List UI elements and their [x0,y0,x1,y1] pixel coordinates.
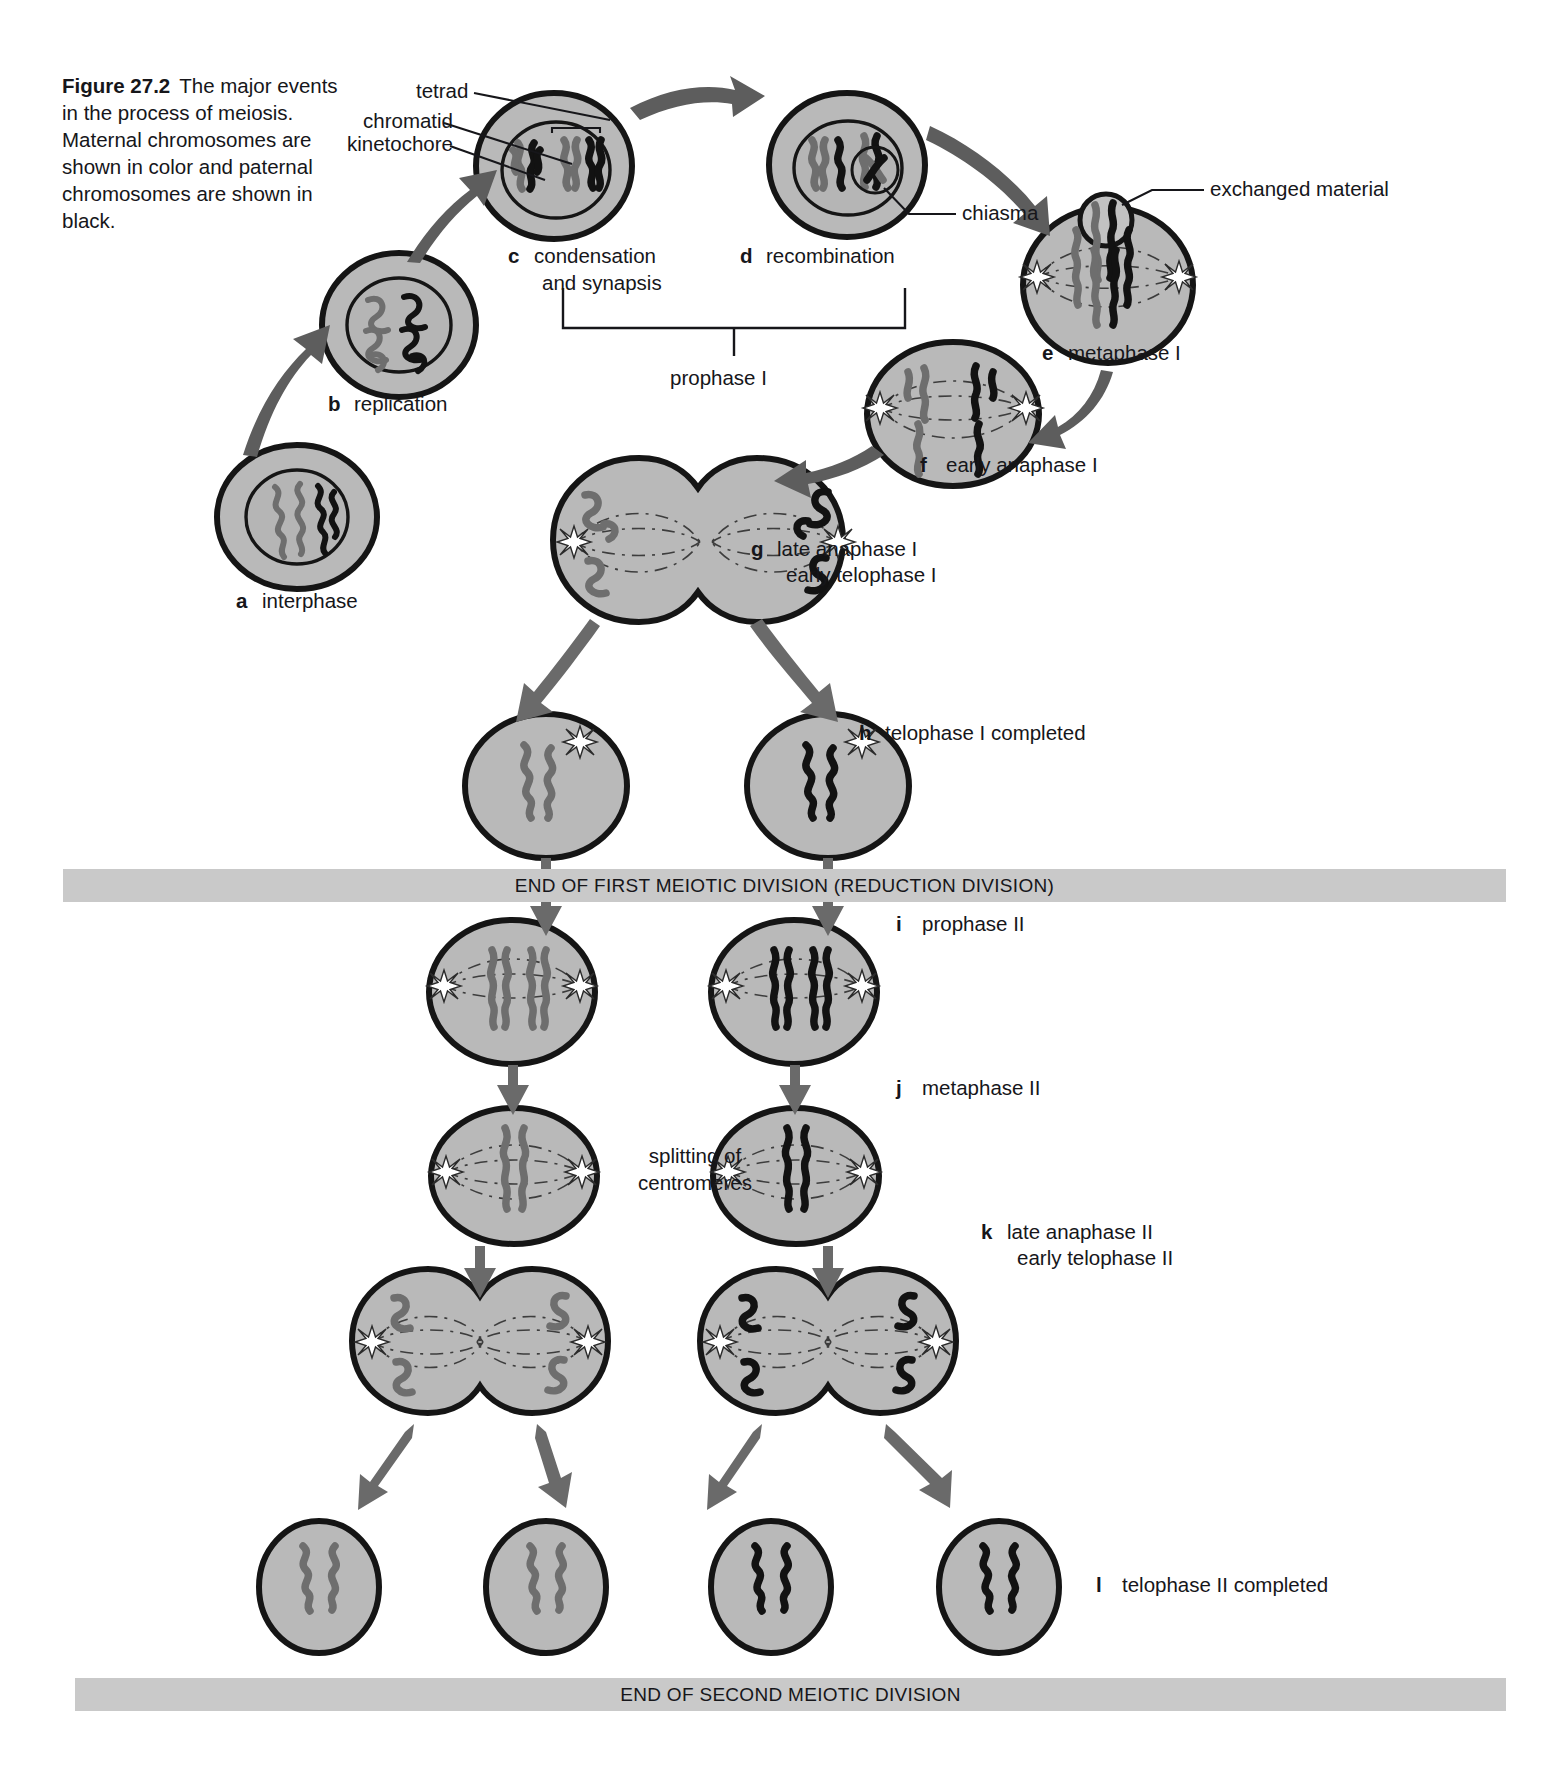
cell-l-telophase-2-completed-3 [711,1521,831,1653]
cell-l-telophase-2-completed-4 [939,1521,1059,1653]
stage-label-g-line2: early telophase I [786,562,936,588]
callout-kinetochore: kinetochore [347,131,453,157]
cell-l-telophase-2-completed-1 [259,1521,379,1653]
cell-c-condensation-synapsis [476,93,632,239]
cell-j-metaphase-2-left [429,1108,599,1244]
cell-l-telophase-2-completed-2 [486,1521,606,1653]
cell-b-replication [322,253,476,397]
stage-label-c: ccondensation [508,243,656,269]
cell-i-prophase-2-right [709,920,879,1064]
stage-label-c-line2: and synapsis [542,270,662,296]
cell-h-telophase-1-completed-left [465,714,627,858]
callout-exchanged-material: exchanged material [1210,176,1389,202]
figure-page: Figure 27.2The major events in the proce… [0,0,1567,1778]
callout-tetrad: tetrad [416,78,468,104]
prophase-1-bracket [563,288,905,356]
figure-caption: Figure 27.2The major events in the proce… [62,72,352,234]
stage-label-l: ltelophase II completed [1096,1572,1328,1598]
stage-label-f: fearly anaphase I [920,452,1098,478]
stage-label-j: jmetaphase II [896,1075,1041,1101]
bracket-label-prophase-1: prophase I [670,365,767,391]
stage-label-i: iprophase II [896,911,1025,937]
annotation-splitting-of-centromeres-line2: centromeres [595,1170,795,1196]
annotation-splitting-of-centromeres-line1: splitting of [595,1143,795,1169]
stage-label-g: glate anaphase I [751,536,917,562]
stage-label-d: drecombination [740,243,895,269]
cell-i-prophase-2-left [427,920,597,1064]
banner-end-first-meiotic-division: END OF FIRST MEIOTIC DIVISION (REDUCTION… [63,869,1506,902]
stage-label-k-line2: early telophase II [1017,1245,1173,1271]
callout-chiasma: chiasma [962,200,1038,226]
cell-a-interphase [217,445,377,589]
figure-number: Figure 27.2 [62,74,170,97]
banner-end-second-meiotic-division: END OF SECOND MEIOTIC DIVISION [75,1678,1506,1711]
stage-label-k: klate anaphase II [981,1219,1153,1245]
figure-caption-text: The major events in the process of meios… [62,74,338,232]
stage-label-a: ainterphase [236,588,358,614]
stage-label-h: htelophase I completed [859,720,1086,746]
stage-label-b: breplication [328,391,447,417]
cell-d-recombination [769,93,956,237]
stage-label-e: emetaphase I [1042,340,1181,366]
